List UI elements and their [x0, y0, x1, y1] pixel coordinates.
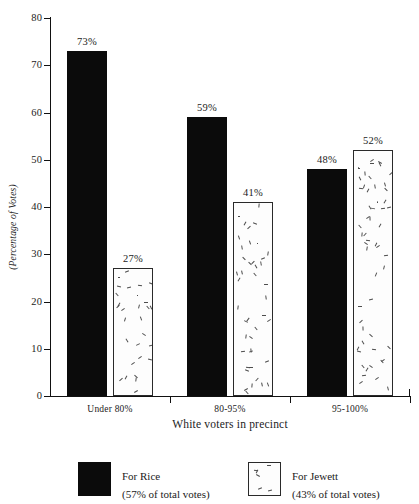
pattern-speck — [238, 235, 240, 239]
pattern-speck — [370, 159, 374, 162]
pattern-speck — [117, 286, 121, 288]
pattern-speck — [267, 383, 269, 387]
pattern-speck — [357, 351, 361, 353]
pattern-speck — [135, 378, 137, 382]
legend-label-rice: For Rice — [122, 470, 160, 482]
pattern-speck — [383, 266, 385, 270]
pattern-speck — [124, 317, 126, 321]
pattern-speck — [126, 338, 129, 342]
pattern-speck — [125, 270, 129, 272]
pattern-speck — [238, 278, 241, 282]
pattern-speck — [241, 270, 243, 274]
pattern-speck — [358, 225, 361, 229]
pattern-speck — [363, 184, 365, 188]
legend-entry-jewett: For Jewett (43% of total votes) — [248, 462, 380, 502]
pattern-speck — [119, 377, 123, 380]
x-axis-tick — [170, 396, 171, 403]
pattern-speck — [366, 240, 370, 241]
pattern-speck — [375, 377, 379, 380]
pattern-speck — [365, 368, 368, 372]
bar-value-label: 27% — [105, 253, 161, 264]
pattern-speck — [268, 489, 272, 491]
pattern-speck — [362, 365, 365, 369]
bar-for-rice-1 — [187, 117, 227, 396]
pattern-speck — [368, 176, 371, 180]
pattern-speck — [255, 327, 258, 331]
pattern-speck — [364, 172, 365, 176]
pattern-speck — [363, 326, 364, 330]
pattern-speck — [359, 320, 363, 323]
pattern-speck — [258, 487, 262, 489]
x-axis-tick — [290, 396, 291, 403]
pattern-speck — [260, 261, 262, 265]
pattern-speck — [256, 474, 260, 477]
pattern-speck — [246, 367, 250, 368]
pattern-speck — [362, 341, 365, 345]
pattern-speck — [266, 296, 268, 300]
legend-sublabel-jewett: (43% of total votes) — [292, 488, 380, 500]
pattern-speck — [245, 335, 247, 339]
y-axis-tick — [44, 396, 51, 397]
pattern-speck — [384, 199, 387, 203]
x-axis-tick — [410, 396, 411, 403]
pattern-speck — [249, 240, 251, 244]
pattern-speck — [251, 383, 252, 387]
bar-value-label: 73% — [59, 36, 115, 47]
pattern-speck — [255, 377, 258, 381]
bar-value-label: 48% — [299, 154, 355, 165]
pattern-speck — [267, 251, 269, 255]
pattern-speck — [244, 321, 248, 324]
pattern-speck — [387, 207, 391, 209]
pattern-speck — [150, 306, 153, 310]
bar-value-label: 59% — [179, 102, 235, 113]
bar-for-rice-0 — [67, 51, 107, 396]
pattern-speck — [117, 305, 120, 309]
pattern-speck — [381, 207, 385, 208]
pattern-speck — [384, 188, 387, 192]
pattern-speck — [261, 257, 265, 260]
pattern-speck — [362, 374, 366, 375]
x-axis-group-label: Under 80% — [50, 404, 170, 414]
pattern-speck — [264, 284, 268, 285]
x-axis-group-label: 80-95% — [170, 404, 290, 414]
pattern-speck — [127, 287, 131, 289]
pattern-speck — [131, 362, 135, 365]
pattern-speck — [116, 292, 119, 296]
y-axis-tick-label: 0 — [8, 391, 42, 401]
bar-for-jewett-2 — [353, 150, 393, 396]
pattern-speck — [364, 242, 368, 245]
pattern-speck — [367, 246, 369, 250]
pattern-speck — [241, 351, 245, 352]
y-axis-tick-label: 60 — [8, 108, 42, 118]
y-axis-tick-label: 10 — [8, 344, 42, 354]
pattern-speck — [262, 383, 264, 387]
pattern-speck — [241, 246, 243, 250]
pattern-speck — [388, 345, 392, 349]
pattern-speck — [358, 306, 362, 307]
pattern-speck — [149, 283, 153, 285]
pattern-speck — [136, 343, 140, 346]
pattern-speck — [389, 172, 393, 175]
pattern-speck — [243, 221, 246, 225]
pattern-speck — [144, 301, 148, 302]
legend-swatch-jewett — [248, 462, 281, 496]
pattern-speck — [249, 335, 253, 338]
pattern-speck — [125, 375, 128, 379]
pattern-speck — [142, 333, 146, 336]
bar-value-label: 41% — [225, 187, 281, 198]
y-axis-tick-label: 20 — [8, 297, 42, 307]
y-axis-title: (Percentage of Votes) — [8, 157, 18, 297]
pattern-speck — [262, 315, 266, 316]
pattern-speck — [370, 365, 374, 368]
pattern-speck — [242, 257, 245, 261]
bar-chart-figure: 01020304050607080 (Percentage of Votes) … — [0, 0, 419, 504]
pattern-speck — [139, 317, 141, 321]
pattern-speck — [379, 224, 382, 228]
x-axis-title: White voters in precinct — [50, 418, 410, 430]
legend-entry-rice: For Rice (57% of total votes) — [78, 462, 210, 502]
pattern-speck — [245, 390, 248, 394]
pattern-speck — [384, 254, 388, 255]
pattern-speck — [375, 185, 377, 189]
pattern-speck — [253, 223, 257, 225]
pattern-speck — [372, 349, 376, 350]
